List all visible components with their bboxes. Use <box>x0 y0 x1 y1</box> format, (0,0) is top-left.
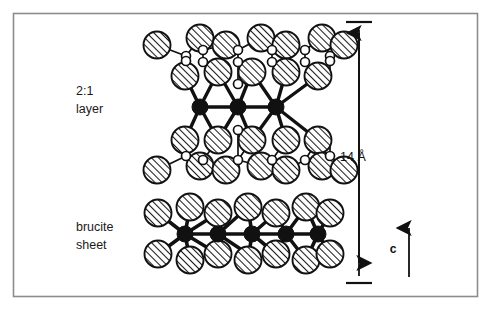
atom-silicon <box>234 46 243 55</box>
atom-oxygen-hydroxyl <box>205 200 232 227</box>
atom-oxygen-hydroxyl <box>305 127 332 154</box>
atom-silicon <box>234 80 243 89</box>
atom-oxygen-hydroxyl <box>273 127 300 154</box>
atom-silicon <box>326 57 335 66</box>
atom-oxygen-hydroxyl <box>273 32 300 59</box>
atom-octahedral-cation <box>278 226 294 242</box>
atom-silicon <box>301 156 310 165</box>
atom-silicon <box>182 152 191 161</box>
atom-oxygen-hydroxyl <box>172 127 199 154</box>
atom-oxygen-hydroxyl <box>305 63 332 90</box>
brucite-label-line1: brucite <box>76 220 114 234</box>
atom-octahedral-cation <box>244 226 260 242</box>
atom-oxygen-hydroxyl <box>177 194 204 221</box>
atom-silicon <box>199 58 208 67</box>
atom-oxygen-hydroxyl <box>293 194 320 221</box>
atom-oxygen-hydroxyl <box>172 63 199 90</box>
atom-oxygen-hydroxyl <box>263 200 290 227</box>
c-axis-label: c <box>390 242 397 256</box>
atom-silicon <box>301 46 310 55</box>
atom-octahedral-cation <box>177 226 193 242</box>
atom-oxygen-hydroxyl <box>205 59 232 86</box>
atom-oxygen-hydroxyl <box>293 247 320 274</box>
atom-oxygen-hydroxyl <box>144 32 171 59</box>
atom-oxygen-hydroxyl <box>144 157 171 184</box>
atom-silicon <box>326 152 335 161</box>
layer-label-line2: layer <box>76 102 103 116</box>
atom-octahedral-cation <box>310 226 326 242</box>
atom-silicon <box>182 57 191 66</box>
atom-oxygen-hydroxyl <box>205 241 232 268</box>
dimension-label: 14 Å <box>340 149 366 164</box>
figure-root: 14 Å c 2:1 layer brucite sheet <box>0 0 494 324</box>
atom-silicon <box>199 156 208 165</box>
crystal-structure-diagram: 14 Å c 2:1 layer brucite sheet <box>0 0 494 324</box>
atom-oxygen-hydroxyl <box>235 194 262 221</box>
atom-oxygen-hydroxyl <box>263 241 290 268</box>
atom-silicon <box>234 126 243 135</box>
atom-oxygen-hydroxyl <box>145 241 172 268</box>
atom-oxygen-hydroxyl <box>145 200 172 227</box>
brucite-label-line2: sheet <box>76 238 107 252</box>
atom-oxygen-hydroxyl <box>317 241 344 268</box>
atom-silicon <box>268 58 277 67</box>
atom-octahedral-cation <box>268 99 284 115</box>
atom-oxygen-hydroxyl <box>235 247 262 274</box>
atom-silicon <box>301 58 310 67</box>
atom-oxygen-hydroxyl <box>317 200 344 227</box>
layer-label-line1: 2:1 <box>76 84 93 98</box>
atom-silicon <box>199 46 208 55</box>
atom-silicon <box>268 46 277 55</box>
atom-silicon <box>268 156 277 165</box>
atom-silicon <box>234 156 243 165</box>
atom-oxygen-hydroxyl <box>205 127 232 154</box>
atom-octahedral-cation <box>210 226 226 242</box>
atom-octahedral-cation <box>192 99 208 115</box>
atom-silicon <box>234 58 243 67</box>
atom-oxygen-hydroxyl <box>177 247 204 274</box>
atom-octahedral-cation <box>230 99 246 115</box>
